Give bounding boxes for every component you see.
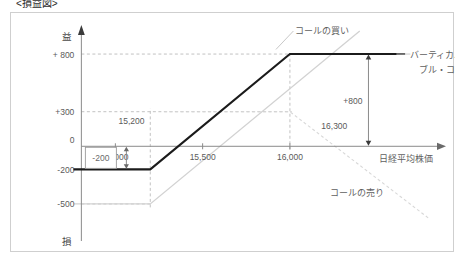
call-buy-leader: [276, 31, 293, 49]
series-call-buy: [73, 31, 359, 204]
chart-frame: 15,00015,50016,000+ 800+3000-200-500益損日経…: [10, 12, 454, 252]
max-loss-label: -200: [92, 153, 109, 163]
y-tick-label-2: 0: [70, 135, 75, 145]
vertical-bull-call-label-2: ブル・コール: [419, 64, 455, 75]
y-tick-label-4: -500: [57, 199, 74, 209]
x-axis-title: 日経平均株価: [379, 153, 433, 164]
call-sell-label: コールの売り: [330, 187, 384, 198]
max-profit-label: +800: [343, 96, 362, 106]
profit-loss-chart: 15,00015,50016,000+ 800+3000-200-500益損日経…: [11, 13, 455, 253]
max-profit-arrow-top: [366, 55, 372, 60]
page-title: <損益図>: [16, 0, 58, 10]
series-call-sell: [164, 112, 429, 219]
y-axis-title-loss: 損: [62, 236, 72, 247]
max-profit-arrow-bottom: [366, 141, 372, 146]
y-axis-title-profit: 益: [62, 31, 72, 42]
max-loss-measure-arrow-top: [124, 147, 129, 152]
x-axis-arrowhead: [437, 143, 446, 150]
max-loss-measure-arrow-bottom: [124, 164, 129, 169]
x-tick-label-1: 15,500: [190, 152, 216, 162]
y-tick-label-3: -200: [57, 165, 74, 175]
breakeven-lower-label: 15,200: [119, 116, 145, 126]
chart-page: <損益図> 15,00015,50016,000+ 800+3000-200-5…: [0, 0, 467, 269]
call-buy-label: コールの買い: [295, 26, 349, 36]
y-axis-arrowhead: [78, 25, 85, 35]
breakeven-upper-label: 16,300: [321, 121, 347, 131]
x-tick-label-2: 16,000: [277, 152, 303, 162]
y-tick-label-0: + 800: [53, 50, 75, 60]
vertical-bull-call-label-1: バーティカル・: [410, 50, 455, 60]
y-tick-label-1: +300: [55, 107, 74, 117]
